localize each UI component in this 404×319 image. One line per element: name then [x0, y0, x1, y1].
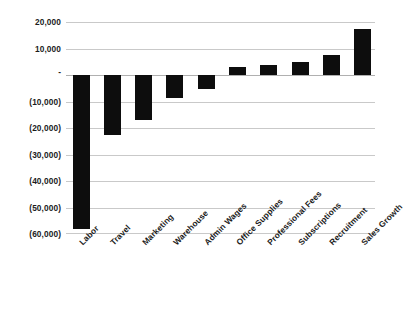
- y-axis-tick-label: (10,000): [0, 98, 61, 107]
- bar-labor[interactable]: [73, 75, 90, 229]
- plot-area: [66, 22, 375, 234]
- bar-subscriptions[interactable]: [292, 62, 309, 75]
- y-axis-tick-label: 20,000: [0, 18, 61, 27]
- y-axis-tick-label: (50,000): [0, 204, 61, 213]
- bar-professional-fees[interactable]: [260, 65, 277, 75]
- bar-sales-growth[interactable]: [354, 29, 371, 75]
- bar-warehouse[interactable]: [166, 75, 183, 98]
- bar-series: [66, 22, 375, 234]
- y-axis-tick-label: -: [0, 68, 61, 77]
- bar-office-supplies[interactable]: [229, 67, 246, 75]
- y-axis-tick-label: (30,000): [0, 151, 61, 160]
- bar-marketing[interactable]: [135, 75, 152, 120]
- bar-travel[interactable]: [104, 75, 121, 135]
- y-axis-tick-label: 10,000: [0, 45, 61, 54]
- bar-admin-wages[interactable]: [198, 75, 215, 89]
- bar-recruitment[interactable]: [323, 55, 340, 75]
- y-axis-tick-label: (60,000): [0, 230, 61, 239]
- y-axis-tick-label: (40,000): [0, 177, 61, 186]
- y-axis-tick-label: (20,000): [0, 124, 61, 133]
